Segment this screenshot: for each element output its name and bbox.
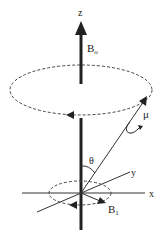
theta-arc — [81, 166, 95, 173]
b1-label: B1 — [108, 203, 119, 217]
b1-vector — [81, 193, 100, 201]
x-axis-label: x — [149, 188, 154, 199]
spin-rotation-icon — [126, 122, 141, 133]
precession-diagram: z Bo μ θ y x B1 — [0, 0, 164, 239]
orbit-direction-arrow-icon — [66, 111, 74, 119]
theta-label: θ — [89, 155, 94, 166]
b0-arrowhead-icon — [75, 21, 87, 35]
b1-orbit-arrow-icon — [69, 201, 77, 209]
y-axis — [37, 172, 130, 212]
spin-arrowhead-icon — [138, 125, 143, 130]
b0-label: Bo — [87, 42, 98, 56]
mu-label: μ — [143, 108, 149, 120]
y-axis-label: y — [131, 167, 136, 178]
z-axis-label: z — [78, 7, 83, 18]
mu-arrowhead-icon — [139, 96, 147, 106]
